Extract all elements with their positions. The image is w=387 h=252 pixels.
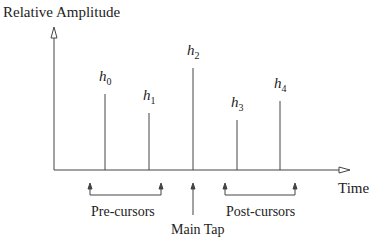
pre-cursor-bracket xyxy=(88,183,163,195)
stem-diagram xyxy=(0,0,387,252)
main-tap-arrow xyxy=(191,183,195,215)
main-tap-label: Main Tap xyxy=(171,222,225,238)
post-cursors-label: Post-cursors xyxy=(226,204,295,220)
stems xyxy=(105,68,280,170)
x-axis-arrow-icon xyxy=(339,167,350,173)
pre-cursors-label: Pre-cursors xyxy=(91,204,155,220)
tap-label-h2: h2 xyxy=(187,42,200,64)
tap-label-h4: h4 xyxy=(274,75,287,97)
tap-label-h3: h3 xyxy=(231,94,244,116)
tap-label-h0: h0 xyxy=(99,68,112,90)
y-axis-arrow-icon xyxy=(51,27,57,38)
tap-label-h1: h1 xyxy=(143,87,156,109)
post-cursor-bracket xyxy=(223,183,297,195)
